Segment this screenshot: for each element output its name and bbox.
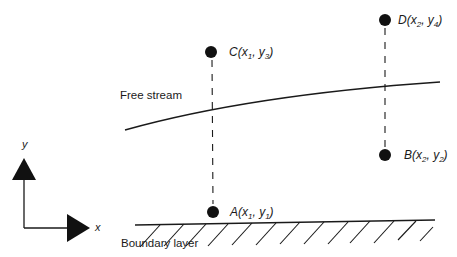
point-a-dot	[207, 206, 219, 218]
boundary-layer-diagram: C(x1, y3) D(x2, y4) B(x2, y2) A(x1, y1) …	[0, 0, 457, 257]
point-a-label: A(x1, y1)	[229, 205, 274, 221]
boundary-layer-label: Boundary layer	[121, 237, 199, 249]
point-b-label: B(x2, y2)	[404, 148, 448, 164]
y-axis-arrowhead-icon	[12, 158, 36, 180]
point-d-dot	[379, 14, 391, 26]
free-stream-label: Free stream	[120, 89, 182, 101]
x-axis-arrowhead-icon	[67, 214, 90, 242]
y-axis-label: y	[21, 138, 29, 150]
point-c-label: C(x1, y3)	[229, 45, 273, 61]
coordinate-axes: y x	[12, 138, 101, 242]
point-d-label: D(x2, y4)	[398, 13, 442, 29]
x-axis-label: x	[94, 221, 101, 233]
point-b-dot	[379, 149, 391, 161]
point-c-dot	[205, 46, 217, 58]
dashed-line-x1	[212, 60, 213, 204]
